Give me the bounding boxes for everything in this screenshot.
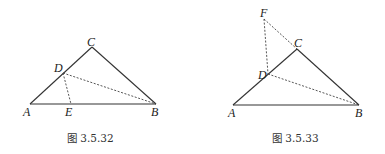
figure-3-5-32: A B C D E 图 3.5.32 (22, 35, 159, 144)
point-label-A: A (227, 106, 236, 120)
point-label-B: B (355, 106, 363, 120)
segment-CB (297, 49, 359, 105)
point-label-C: C (294, 36, 303, 50)
segment-DE (63, 73, 71, 104)
segment-FD (264, 19, 268, 74)
point-label-E: E (64, 105, 73, 119)
point-label-C: C (87, 35, 96, 49)
segment-FC (264, 19, 297, 49)
figure-caption: 图 3.5.33 (272, 132, 319, 144)
segment-DB (268, 74, 359, 105)
segment-AC (30, 47, 92, 104)
point-label-F: F (259, 6, 268, 20)
figure-caption: 图 3.5.32 (67, 132, 114, 144)
point-label-D: D (257, 68, 267, 82)
segment-CB (92, 47, 156, 104)
point-label-D: D (53, 61, 63, 75)
geometry-figures: A B C D E 图 3.5.32 A B C D F 图 3.5.33 (0, 0, 385, 154)
figure-3-5-33: A B C D F 图 3.5.33 (227, 6, 363, 144)
segment-DB (63, 73, 156, 104)
point-label-B: B (151, 105, 159, 119)
point-label-A: A (22, 105, 31, 119)
